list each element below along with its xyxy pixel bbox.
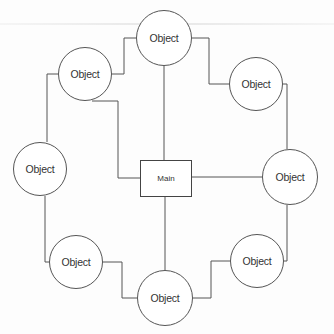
connector-lower-right-to-bottom (193, 261, 230, 298)
object-node-label: Object (275, 171, 304, 183)
object-node-lower-left: Object (49, 235, 103, 289)
object-node-label: Object (70, 68, 99, 80)
connector-bottom-to-lower-left (103, 262, 137, 298)
object-node-upper-left: Object (58, 47, 112, 101)
object-node-label: Object (149, 32, 178, 44)
connector-upper-left-to-hub (92, 101, 140, 178)
connector-lower-left-to-left (45, 196, 49, 262)
object-node-label: Object (25, 163, 54, 175)
object-node-top: Object (136, 10, 192, 66)
connector-top-to-upper-right (192, 38, 229, 84)
object-node-right: Object (262, 149, 318, 205)
diagram-canvas: Main Object Object Object Object Object … (0, 0, 334, 334)
main-hub-label: Main (157, 174, 174, 183)
object-node-label: Object (241, 78, 270, 90)
main-hub-box: Main (140, 160, 192, 197)
connector-left-to-upper-left (47, 74, 58, 142)
object-node-bottom: Object (137, 270, 193, 326)
object-node-label: Object (61, 256, 90, 268)
object-node-label: Object (150, 292, 179, 304)
connector-top-to-upper-left (112, 38, 136, 74)
connector-upper-right-to-right (283, 84, 287, 149)
object-node-upper-right: Object (229, 57, 283, 111)
object-node-lower-right: Object (230, 234, 284, 288)
object-node-left: Object (13, 142, 67, 196)
connector-right-to-lower-right (284, 205, 287, 261)
object-node-label: Object (242, 255, 271, 267)
